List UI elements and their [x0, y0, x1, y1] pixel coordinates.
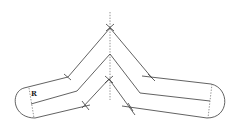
- center-line: [31, 54, 210, 104]
- radius-label: R: [31, 89, 37, 98]
- outer-edge-left: [24, 77, 68, 88]
- outer-edge-right: [142, 76, 211, 84]
- inner-edge-v: [82, 79, 135, 115]
- bent-strip-diagram: R: [0, 0, 240, 129]
- inner-edge-left: [35, 105, 90, 118]
- inner-edge-right: [122, 106, 207, 118]
